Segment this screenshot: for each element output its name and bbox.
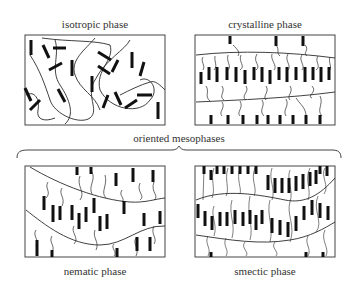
crystalline-phase-title: crystalline phase xyxy=(195,18,335,30)
isotropic-phase-title: isotropic phase xyxy=(25,18,165,30)
crystalline-panel xyxy=(195,35,335,125)
smectic-panel xyxy=(195,166,335,257)
mesophase-brace xyxy=(17,146,341,158)
oriented-mesophases-label: oriented mesophases xyxy=(100,132,258,144)
nematic-phase-label: nematic phase xyxy=(25,265,165,277)
nematic-panel xyxy=(25,166,165,257)
smectic-phase-label: smectic phase xyxy=(195,265,335,277)
isotropic-panel xyxy=(25,35,165,125)
